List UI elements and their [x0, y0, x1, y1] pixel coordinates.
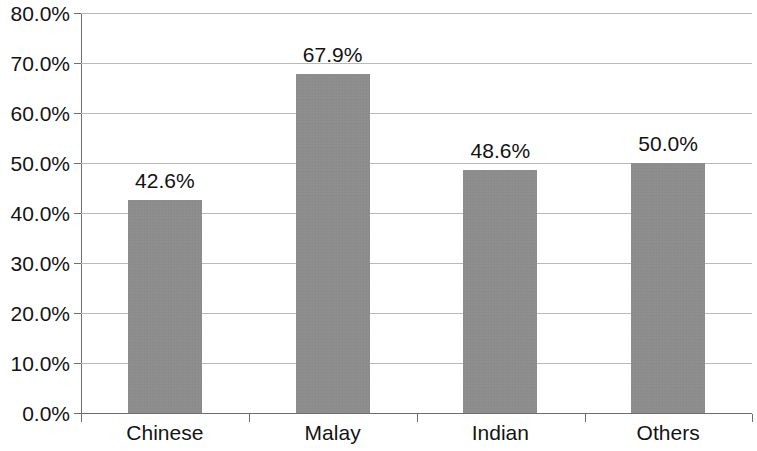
y-axis-tick-label: 0.0% — [0, 402, 70, 426]
bar-chinese[interactable] — [128, 200, 202, 413]
x-axis-tick-mark — [752, 414, 753, 422]
x-axis-label-malay: Malay — [253, 421, 413, 445]
y-axis-tick-label: 50.0% — [0, 152, 70, 176]
x-axis-label-indian: Indian — [420, 421, 580, 445]
bar-others[interactable] — [631, 163, 705, 413]
y-axis-tick-label: 80.0% — [0, 2, 70, 26]
bar-value-label-malay: 67.9% — [263, 43, 403, 67]
gridline-70 — [81, 63, 752, 64]
gridline-80 — [81, 13, 752, 14]
x-axis-label-others: Others — [588, 421, 748, 445]
x-axis-tick-mark — [81, 414, 82, 422]
y-axis-tick-label: 40.0% — [0, 202, 70, 226]
y-axis-tick-label: 70.0% — [0, 52, 70, 76]
x-axis-tick-mark — [249, 414, 250, 422]
y-axis-tick-label: 30.0% — [0, 252, 70, 276]
x-axis-tick-mark — [417, 414, 418, 422]
gridline-60 — [81, 113, 752, 114]
bar-malay[interactable] — [296, 74, 370, 414]
x-axis-tick-mark — [585, 414, 586, 422]
bar-indian[interactable] — [463, 170, 537, 413]
y-axis-tick-label: 60.0% — [0, 102, 70, 126]
bar-value-label-indian: 48.6% — [430, 139, 570, 163]
x-axis-label-chinese: Chinese — [85, 421, 245, 445]
bar-value-label-chinese: 42.6% — [95, 169, 235, 193]
plot-area — [81, 13, 752, 413]
y-axis-tick-label: 10.0% — [0, 352, 70, 376]
y-axis-tick-label: 20.0% — [0, 302, 70, 326]
bar-chart: 80.0% 70.0% 60.0% 50.0% 40.0% 30.0% 20.0… — [0, 0, 757, 451]
bar-value-label-others: 50.0% — [598, 132, 738, 156]
